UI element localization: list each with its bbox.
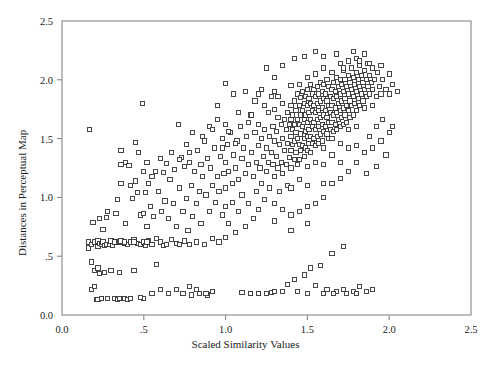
data-point [284,127,288,131]
data-point [345,85,349,89]
data-point [284,162,288,166]
data-point [307,97,311,101]
data-point [305,292,309,296]
data-point [279,122,283,126]
data-point [273,219,277,223]
data-point [242,146,246,150]
data-point [325,287,329,291]
data-point [330,181,334,185]
data-point [206,156,210,160]
data-point [289,134,293,138]
data-point [381,118,385,122]
data-point [286,282,290,286]
data-point [359,73,363,77]
data-point [184,196,188,200]
data-point [371,66,375,70]
data-point [261,154,265,158]
data-point [322,162,326,166]
data-point [387,92,391,96]
data-point [227,169,231,173]
data-point [104,215,108,219]
data-point [220,137,224,141]
data-point [372,78,376,82]
data-point [89,260,93,264]
data-point [145,160,149,164]
data-point [395,89,399,93]
data-point [374,165,378,169]
data-point [281,207,285,211]
data-point [269,94,273,98]
data-point [194,287,198,291]
x-tick-label: 2.5 [464,324,477,335]
data-point [186,228,190,232]
data-point [188,160,192,164]
data-point [269,151,273,155]
data-point [204,193,208,197]
data-point [214,200,218,204]
data-point [354,144,358,148]
data-point [101,227,105,231]
data-point [279,160,283,164]
data-point [230,200,234,204]
data-point [331,80,335,84]
data-point [189,293,193,297]
data-point [191,214,195,218]
data-point [240,193,244,197]
data-point [330,252,334,256]
data-point [232,153,236,157]
data-point [264,292,268,296]
data-point [264,169,268,173]
data-point [358,104,362,108]
data-point [343,113,347,117]
data-point [243,225,247,229]
data-point [313,284,317,288]
data-point [210,289,214,293]
data-point [354,108,358,112]
data-point [313,160,317,164]
data-point [295,289,299,293]
data-point [322,82,326,86]
data-point [374,94,378,98]
data-point [256,92,260,96]
data-point [289,84,293,88]
data-point [281,172,285,176]
data-point [188,285,192,289]
data-point [215,174,219,178]
data-point [251,216,255,220]
data-point [349,87,353,91]
data-point [220,146,224,150]
data-point [165,161,169,165]
data-point [117,296,121,300]
data-point [256,122,260,126]
data-point [161,171,165,175]
data-point [132,268,136,272]
data-point [361,99,365,103]
data-point [274,154,278,158]
data-point [266,160,270,164]
data-point [333,106,337,110]
plot-canvas: 0.0.51.01.52.02.5 0.0.51.01.52.02.5 [0,0,491,365]
data-point [305,75,309,79]
data-point [119,162,123,166]
data-point [256,207,260,211]
data-point [358,64,362,68]
data-point [363,151,367,155]
data-points-layer [86,49,399,301]
y-tick-label: 2.0 [40,75,53,86]
data-point [150,174,154,178]
data-point [297,158,301,162]
data-point [197,292,201,296]
data-point [354,292,358,296]
data-point [155,262,159,266]
data-point [297,82,301,86]
x-tick-label: 1.0 [219,324,232,335]
data-point [281,289,285,293]
data-point [99,296,103,300]
x-tick-label: 0.0 [55,324,68,335]
data-point [217,189,221,193]
data-point [354,89,358,93]
data-point [387,131,391,135]
data-point [224,81,228,85]
x-tick-label: 2.0 [383,324,396,335]
data-point [273,174,277,178]
